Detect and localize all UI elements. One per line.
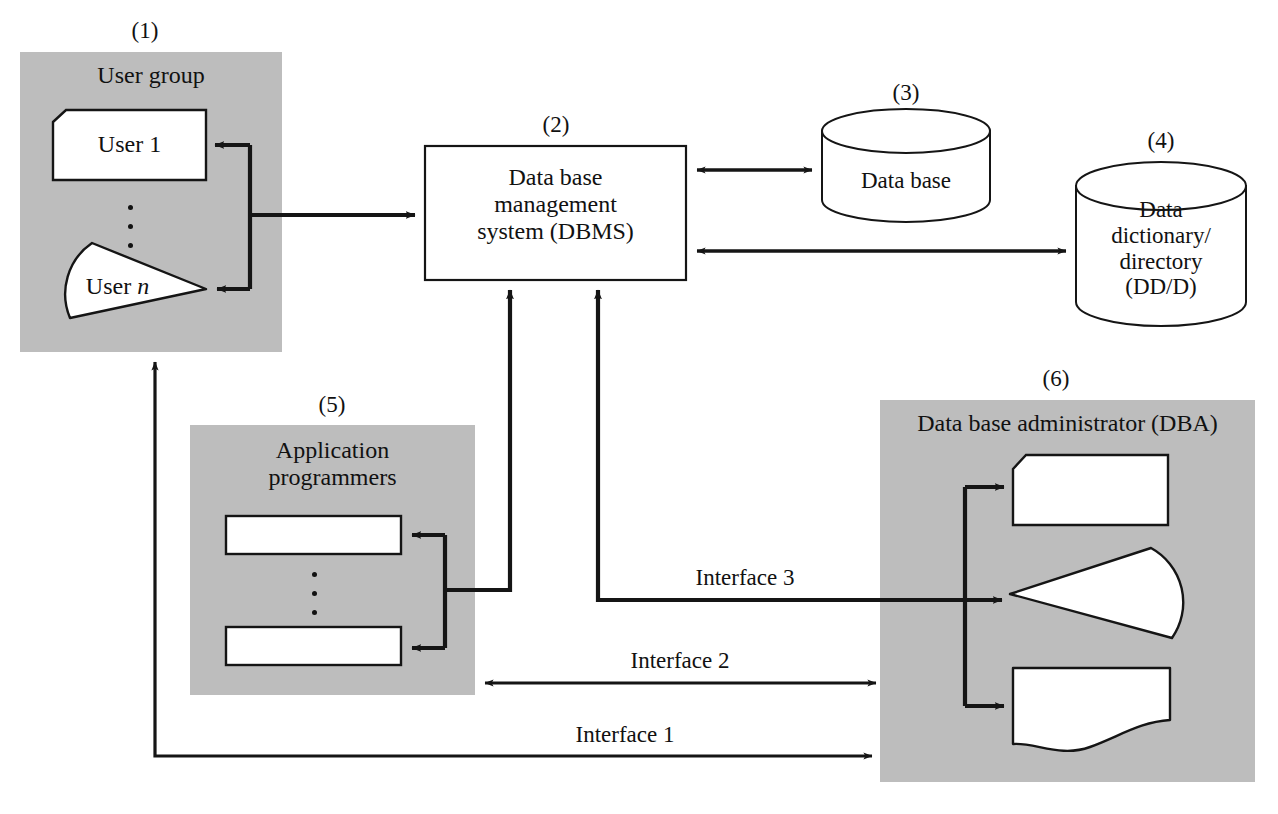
user-n-index: n xyxy=(137,273,149,299)
label-number-6: (6) xyxy=(1024,366,1088,392)
application-programmers-ellipsis xyxy=(312,572,318,629)
dictionary-line-2: dictionary/ xyxy=(1076,223,1246,249)
label-number-3: (3) xyxy=(874,80,938,106)
label-number-5: (5) xyxy=(300,392,364,418)
dbms-line-2: management xyxy=(425,191,686,218)
dictionary-line-1: Data xyxy=(1076,197,1246,223)
diagram-canvas: (1) (2) (3) (4) (5) (6) User group User … xyxy=(0,0,1278,814)
label-number-2: (2) xyxy=(524,112,588,138)
user-n-label: User n xyxy=(55,273,180,300)
label-number-4: (4) xyxy=(1129,128,1193,154)
database-cylinder xyxy=(822,109,990,222)
appprog-line-1: Application xyxy=(190,437,475,464)
data-dictionary-label: Data dictionary/ directory (DD/D) xyxy=(1076,197,1246,300)
application-programmers-title: Application programmers xyxy=(190,437,475,491)
application-program-box-1 xyxy=(226,516,401,554)
application-program-box-n xyxy=(226,627,401,665)
database-label: Data base xyxy=(822,168,990,194)
dba-shape-top xyxy=(1013,455,1168,525)
interface-1-label: Interface 1 xyxy=(500,722,750,748)
user-group-ellipsis xyxy=(128,205,134,262)
diagram-vector-layer xyxy=(0,0,1278,814)
dictionary-line-3: directory xyxy=(1076,249,1246,275)
user-group-panel xyxy=(20,52,282,352)
dictionary-line-4: (DD/D) xyxy=(1076,274,1246,300)
appprog-line-2: programmers xyxy=(190,464,475,491)
dbms-line-1: Data base xyxy=(425,164,686,191)
user-n-prefix: User xyxy=(86,273,137,299)
interface-2-label: Interface 2 xyxy=(555,648,805,674)
label-number-1: (1) xyxy=(113,18,177,44)
interface-3-label: Interface 3 xyxy=(620,565,870,591)
dbms-label: Data base management system (DBMS) xyxy=(425,164,686,245)
dba-title: Data base administrator (DBA) xyxy=(880,410,1255,437)
user-1-label: User 1 xyxy=(53,131,206,158)
dbms-line-3: system (DBMS) xyxy=(425,218,686,245)
user-group-title: User group xyxy=(20,62,282,89)
